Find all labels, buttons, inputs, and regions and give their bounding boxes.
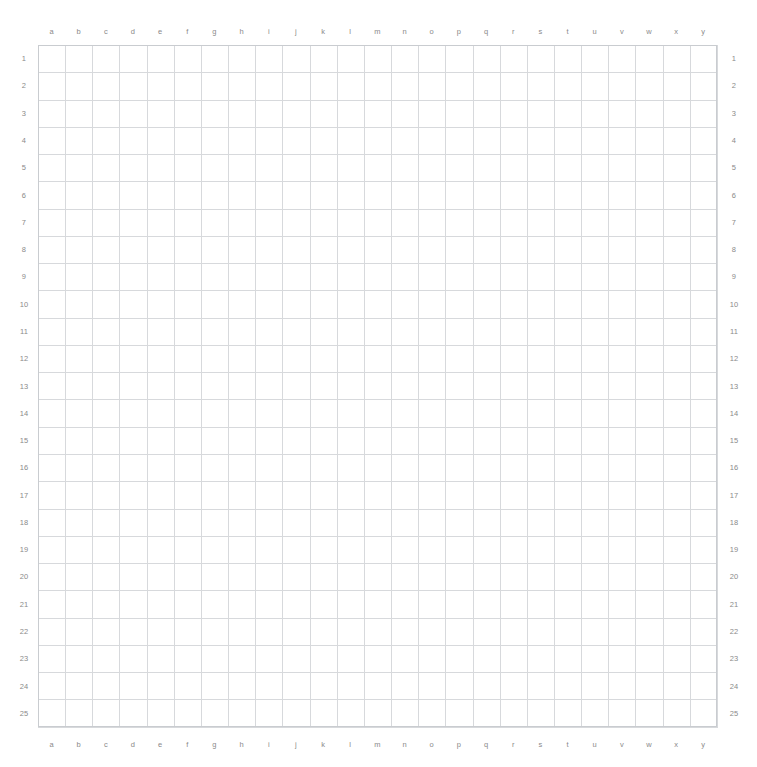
grid-cell-t8[interactable] <box>554 236 581 263</box>
grid-cell-r12[interactable] <box>500 345 527 372</box>
column-label-w-top[interactable]: w <box>635 25 662 39</box>
grid-cell-n20[interactable] <box>392 564 419 591</box>
grid-cell-g1[interactable] <box>201 46 228 73</box>
grid-cell-w7[interactable] <box>636 209 663 236</box>
grid-cell-k11[interactable] <box>310 318 337 345</box>
grid-cell-o13[interactable] <box>419 373 446 400</box>
grid-cell-t9[interactable] <box>554 264 581 291</box>
column-label-k-bottom[interactable]: k <box>310 738 337 752</box>
grid-cell-c11[interactable] <box>93 318 120 345</box>
grid-cell-f4[interactable] <box>174 127 201 154</box>
column-label-j-bottom[interactable]: j <box>282 738 309 752</box>
grid-cell-t12[interactable] <box>554 345 581 372</box>
grid-cell-g12[interactable] <box>201 345 228 372</box>
grid-cell-g16[interactable] <box>201 454 228 481</box>
grid-cell-y6[interactable] <box>690 182 717 209</box>
grid-cell-m22[interactable] <box>364 618 391 645</box>
grid-cell-i9[interactable] <box>256 264 283 291</box>
grid-cell-r6[interactable] <box>500 182 527 209</box>
grid-cell-y1[interactable] <box>690 46 717 73</box>
grid-cell-t24[interactable] <box>554 673 581 700</box>
row-label-25-left[interactable]: 25 <box>12 700 36 727</box>
grid-cell-l9[interactable] <box>337 264 364 291</box>
grid-cell-k1[interactable] <box>310 46 337 73</box>
grid-cell-s3[interactable] <box>527 100 554 127</box>
grid-cell-t16[interactable] <box>554 454 581 481</box>
grid-cell-a9[interactable] <box>39 264 66 291</box>
grid-cell-q18[interactable] <box>473 509 500 536</box>
row-label-2-right[interactable]: 2 <box>722 72 746 99</box>
grid-cell-l24[interactable] <box>337 673 364 700</box>
grid-cell-f18[interactable] <box>174 509 201 536</box>
grid-cell-e25[interactable] <box>147 700 174 727</box>
grid-cell-x1[interactable] <box>663 46 690 73</box>
grid-cell-j16[interactable] <box>283 454 310 481</box>
grid-cell-k3[interactable] <box>310 100 337 127</box>
grid-cell-m13[interactable] <box>364 373 391 400</box>
grid-cell-b13[interactable] <box>66 373 93 400</box>
grid-cell-b16[interactable] <box>66 454 93 481</box>
grid-cell-k14[interactable] <box>310 400 337 427</box>
grid-cell-v11[interactable] <box>609 318 636 345</box>
grid-cell-n25[interactable] <box>392 700 419 727</box>
grid-cell-i14[interactable] <box>256 400 283 427</box>
grid-cell-l16[interactable] <box>337 454 364 481</box>
column-label-r-bottom[interactable]: r <box>500 738 527 752</box>
column-label-f-top[interactable]: f <box>174 25 201 39</box>
grid-cell-c22[interactable] <box>93 618 120 645</box>
row-label-13-left[interactable]: 13 <box>12 372 36 399</box>
grid-cell-n21[interactable] <box>392 591 419 618</box>
row-label-5-left[interactable]: 5 <box>12 154 36 181</box>
grid-cell-r5[interactable] <box>500 155 527 182</box>
column-label-a-top[interactable]: a <box>38 25 65 39</box>
grid-cell-p16[interactable] <box>446 454 473 481</box>
grid-cell-g25[interactable] <box>201 700 228 727</box>
grid-cell-k4[interactable] <box>310 127 337 154</box>
grid-cell-q23[interactable] <box>473 645 500 672</box>
grid-cell-f1[interactable] <box>174 46 201 73</box>
grid-cell-q5[interactable] <box>473 155 500 182</box>
grid-cell-h1[interactable] <box>229 46 256 73</box>
grid-cell-o2[interactable] <box>419 73 446 100</box>
column-label-s-bottom[interactable]: s <box>527 738 554 752</box>
grid-cell-o6[interactable] <box>419 182 446 209</box>
grid-cell-v6[interactable] <box>609 182 636 209</box>
grid-cell-j19[interactable] <box>283 536 310 563</box>
column-label-c-bottom[interactable]: c <box>92 738 119 752</box>
row-label-9-right[interactable]: 9 <box>722 263 746 290</box>
grid-cell-r14[interactable] <box>500 400 527 427</box>
grid-cell-w3[interactable] <box>636 100 663 127</box>
grid-cell-b8[interactable] <box>66 236 93 263</box>
grid-cell-l5[interactable] <box>337 155 364 182</box>
grid-cell-y17[interactable] <box>690 482 717 509</box>
grid-cell-q11[interactable] <box>473 318 500 345</box>
grid-cell-v23[interactable] <box>609 645 636 672</box>
grid-cell-f22[interactable] <box>174 618 201 645</box>
grid-cell-g19[interactable] <box>201 536 228 563</box>
grid-cell-b21[interactable] <box>66 591 93 618</box>
grid-cell-j6[interactable] <box>283 182 310 209</box>
grid-cell-m12[interactable] <box>364 345 391 372</box>
grid-cell-v1[interactable] <box>609 46 636 73</box>
grid-cell-h7[interactable] <box>229 209 256 236</box>
grid-cell-t11[interactable] <box>554 318 581 345</box>
grid-cell-d13[interactable] <box>120 373 147 400</box>
column-label-g-top[interactable]: g <box>201 25 228 39</box>
row-label-4-left[interactable]: 4 <box>12 127 36 154</box>
grid-cell-c24[interactable] <box>93 673 120 700</box>
row-label-15-right[interactable]: 15 <box>722 427 746 454</box>
grid-cell-n12[interactable] <box>392 345 419 372</box>
grid-cell-p4[interactable] <box>446 127 473 154</box>
grid-cell-j1[interactable] <box>283 46 310 73</box>
grid-cell-d9[interactable] <box>120 264 147 291</box>
grid-cell-t4[interactable] <box>554 127 581 154</box>
grid-cell-h5[interactable] <box>229 155 256 182</box>
grid-cell-k12[interactable] <box>310 345 337 372</box>
grid-cell-o15[interactable] <box>419 427 446 454</box>
grid-cell-u20[interactable] <box>582 564 609 591</box>
grid-cell-y11[interactable] <box>690 318 717 345</box>
grid-cell-v13[interactable] <box>609 373 636 400</box>
grid-cell-a6[interactable] <box>39 182 66 209</box>
grid-cell-a24[interactable] <box>39 673 66 700</box>
grid-cell-p19[interactable] <box>446 536 473 563</box>
